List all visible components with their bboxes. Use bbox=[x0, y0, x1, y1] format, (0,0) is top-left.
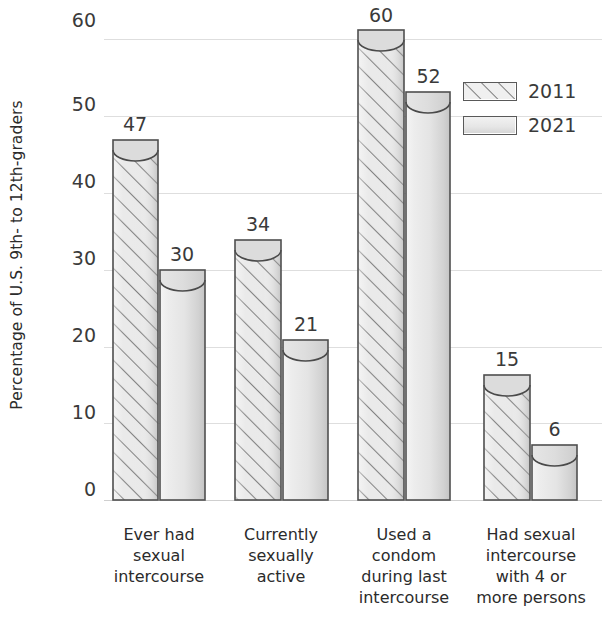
legend-label-2011: 2011 bbox=[528, 82, 576, 101]
category-line: sexually bbox=[222, 545, 340, 566]
category-line: intercourse bbox=[100, 566, 218, 587]
gridline-40 bbox=[104, 193, 602, 194]
value-label-2021-group-3: 52 bbox=[405, 67, 452, 86]
y-tick-label-50: 50 bbox=[52, 95, 96, 114]
bar-chart: Percentage of U.S. 9th- to 12th-graders … bbox=[0, 0, 612, 618]
legend-label-2021: 2021 bbox=[528, 116, 576, 135]
bar-2011-group-2 bbox=[234, 239, 282, 501]
y-axis-title: Percentage of U.S. 9th- to 12th-graders bbox=[0, 0, 34, 510]
y-axis-title-text: Percentage of U.S. 9th- to 12th-graders bbox=[8, 100, 26, 409]
category-line: sexual bbox=[100, 545, 218, 566]
category-line: more persons bbox=[467, 587, 595, 608]
category-label-group-3: Used a condom during last intercourse bbox=[345, 524, 463, 608]
legend-item-2021[interactable]: 2021 bbox=[463, 112, 576, 138]
y-tick-label-30: 30 bbox=[52, 249, 96, 268]
legend: 2011 2021 bbox=[463, 78, 576, 146]
category-label-group-1: Ever had sexual intercourse bbox=[100, 524, 218, 587]
gridline-60 bbox=[104, 39, 602, 40]
legend-item-2011[interactable]: 2011 bbox=[463, 78, 576, 104]
category-label-group-4: Had sexual intercourse with 4 or more pe… bbox=[467, 524, 595, 608]
category-line: with 4 or bbox=[467, 566, 595, 587]
value-label-2011-group-3: 60 bbox=[357, 6, 405, 25]
plain-swatch-icon bbox=[463, 116, 517, 135]
value-label-2011-group-1: 47 bbox=[111, 115, 159, 134]
y-tick-label-60: 60 bbox=[52, 11, 96, 30]
value-label-2011-group-2: 34 bbox=[234, 215, 282, 234]
bar-2021-group-4 bbox=[531, 444, 578, 501]
value-label-2021-group-2: 21 bbox=[282, 315, 330, 334]
bar-2021-group-1 bbox=[159, 269, 206, 501]
category-line: Currently bbox=[222, 524, 340, 545]
y-tick-label-20: 20 bbox=[52, 326, 96, 345]
category-line: intercourse bbox=[467, 545, 595, 566]
category-line: intercourse bbox=[345, 587, 463, 608]
category-line: Ever had bbox=[100, 524, 218, 545]
y-tick-label-10: 10 bbox=[52, 403, 96, 422]
category-line: Had sexual bbox=[467, 524, 595, 545]
category-line: during last bbox=[345, 566, 463, 587]
hatched-swatch-icon bbox=[463, 82, 517, 101]
category-line: condom bbox=[345, 545, 463, 566]
value-label-2011-group-4: 15 bbox=[483, 350, 531, 369]
bar-2021-group-2 bbox=[282, 339, 329, 501]
value-label-2021-group-1: 30 bbox=[158, 245, 206, 264]
category-line: Used a bbox=[345, 524, 463, 545]
value-label-2021-group-4: 6 bbox=[531, 420, 578, 439]
y-tick-label-40: 40 bbox=[52, 172, 96, 191]
bar-2011-group-3 bbox=[357, 29, 405, 501]
y-tick-label-0: 0 bbox=[52, 480, 96, 499]
bar-2021-group-3 bbox=[405, 91, 451, 501]
bar-2011-group-4 bbox=[483, 374, 531, 501]
category-line: active bbox=[222, 566, 340, 587]
category-label-group-2: Currently sexually active bbox=[222, 524, 340, 587]
bar-2011-group-1 bbox=[112, 139, 159, 501]
